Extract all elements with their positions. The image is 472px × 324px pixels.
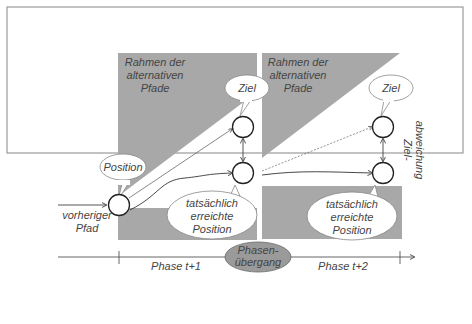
phase-transition-ellipse: Phasen- übergang <box>225 242 291 272</box>
phase1-actual-label-line3: Position <box>192 223 231 235</box>
deviation-label: Ziel- abweichung <box>402 121 426 181</box>
phase2-actual-path-arrow <box>262 172 372 175</box>
phase1-frame-label-line3: Pfade <box>141 82 170 94</box>
previous-path-label-line2: Pfad <box>76 222 100 234</box>
phase2-target-bubble: Ziel <box>369 75 413 116</box>
phase2-frame-label-line3: Pfade <box>284 82 313 94</box>
previous-path-label-line1: vorheriger <box>62 209 113 221</box>
phase1-target-node <box>233 117 254 138</box>
phase1-actual-label-line1: tatsächlich <box>186 197 238 209</box>
phase1-frame-label-line1: Rahmen der <box>125 56 187 68</box>
transition-label-line1: Phasen- <box>238 244 279 256</box>
phase-path-diagram: Rahmen der alternativen Pfade Rahmen der… <box>0 0 472 324</box>
phase1-target-label: Ziel <box>237 82 256 94</box>
phase2-actual-label-line2: erreichte <box>331 211 374 223</box>
phase-t2-label: Phase t+2 <box>318 260 368 272</box>
phase2-actual-label-line3: Position <box>332 224 371 236</box>
phase-t1-label: Phase t+1 <box>151 260 201 272</box>
start-position-node <box>109 195 130 216</box>
phase2-target-label: Ziel <box>381 82 400 94</box>
phase1-actual-node <box>233 163 254 184</box>
position-bubble-label: Position <box>103 161 142 173</box>
phase2-frame-label-line2: alternativen <box>270 69 327 81</box>
phase1-frame-label-line2: alternativen <box>127 69 184 81</box>
phase2-actual-node <box>373 163 394 184</box>
deviation-label-line2: abweichung <box>414 121 426 181</box>
phase2-actual-label-line1: tatsächlich <box>326 198 378 210</box>
phase1-actual-position-bubble: tatsächlich erreichte Position <box>167 185 257 239</box>
phase1-actual-label-line2: erreichte <box>191 210 234 222</box>
deviation-label-line1: Ziel- <box>402 138 414 161</box>
phase2-target-node <box>373 117 394 138</box>
transition-label-line2: übergang <box>235 256 282 268</box>
phase2-frame-label-line1: Rahmen der <box>268 56 330 68</box>
